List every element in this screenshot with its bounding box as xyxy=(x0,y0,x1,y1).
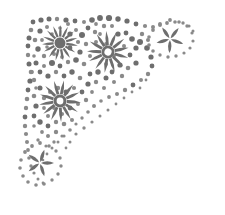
scatter-dot xyxy=(54,149,57,152)
scatter-dot xyxy=(123,88,127,92)
scatter-dot xyxy=(123,97,126,100)
scatter-dot xyxy=(38,70,43,75)
scatter-dot xyxy=(177,20,181,24)
scatter-dot xyxy=(120,74,124,78)
scatter-dot xyxy=(54,120,58,124)
scatter-dot xyxy=(102,86,106,90)
scatter-dot xyxy=(37,178,40,181)
scatter-dot xyxy=(24,106,28,110)
scatter-dot xyxy=(102,24,106,28)
scatter-dot xyxy=(32,94,37,99)
scatter-dot xyxy=(115,103,118,106)
scatter-dot xyxy=(45,25,49,29)
scatter-dot xyxy=(55,17,59,21)
scatter-dot xyxy=(93,30,97,34)
scatter-dot xyxy=(140,32,144,36)
scatter-dot xyxy=(70,118,74,122)
scatter-dot xyxy=(35,46,40,51)
scatter-dot xyxy=(24,132,28,136)
scatter-dot xyxy=(26,53,30,57)
scatter-dot xyxy=(80,116,83,119)
scatter-dot xyxy=(188,46,191,49)
scatter-dot xyxy=(30,144,34,148)
scatter-dot xyxy=(185,24,188,27)
scatter-dot xyxy=(58,156,61,159)
scatter-dot xyxy=(32,78,36,82)
scatter-dot xyxy=(42,106,46,110)
scatter-dot xyxy=(32,114,37,119)
scatter-dot xyxy=(26,88,31,93)
scatter-dot xyxy=(82,20,86,24)
scatter-dot xyxy=(182,51,185,54)
scatter-dot xyxy=(92,104,96,108)
scatter-dot xyxy=(49,60,55,66)
scatter-dot xyxy=(73,19,78,24)
scatter-dot xyxy=(99,115,102,118)
scatter-dot xyxy=(77,49,82,54)
scatter-dot xyxy=(34,61,39,66)
scatter-dot xyxy=(36,138,39,141)
scatter-dot xyxy=(122,44,126,48)
scatter-dot xyxy=(40,38,44,42)
scatter-dot xyxy=(89,17,95,23)
scatter-dot xyxy=(94,22,98,26)
scatter-dot xyxy=(56,172,59,175)
scatter-dot xyxy=(32,54,36,58)
ornament-canvas xyxy=(0,0,225,215)
scatter-dot xyxy=(107,109,110,112)
scatter-dot xyxy=(137,39,143,45)
scatter-dot xyxy=(37,28,42,33)
scatter-dot xyxy=(166,55,169,58)
scatter-dot xyxy=(112,80,116,84)
scatter-dot xyxy=(190,31,193,34)
scatter-dot xyxy=(173,20,177,24)
scatter-dot xyxy=(50,178,53,181)
scatter-dot xyxy=(23,150,27,154)
scatter-dot xyxy=(174,54,177,57)
scatter-dot xyxy=(148,54,153,59)
scatter-dot xyxy=(32,124,36,128)
scatter-dot xyxy=(106,15,112,21)
scatter-dot xyxy=(69,141,72,144)
scatter-dot xyxy=(68,128,72,132)
scatter-dot xyxy=(27,62,32,67)
scatter-dot xyxy=(158,53,161,56)
scatter-dot xyxy=(139,87,142,90)
scatter-dot xyxy=(147,43,151,47)
scatter-dot xyxy=(146,38,150,42)
scatter-dot xyxy=(84,42,88,46)
scatter-dot xyxy=(86,26,91,31)
scatter-dot xyxy=(65,147,68,150)
scatter-dot xyxy=(54,70,58,74)
scatter-dot xyxy=(115,16,120,21)
scatter-dot xyxy=(80,90,85,95)
scatter-dot xyxy=(60,134,63,137)
scatter-dot xyxy=(124,18,129,23)
scatter-dot xyxy=(95,69,100,74)
scatter-dot xyxy=(94,80,98,84)
scatter-dot xyxy=(129,36,135,42)
scatter-dot xyxy=(66,60,70,64)
scatter-dot xyxy=(143,24,147,28)
scatter-dot xyxy=(45,73,50,78)
scatter-dot xyxy=(30,70,34,74)
scatter-dot xyxy=(57,141,60,144)
scatter-dot xyxy=(38,141,42,145)
scatter-dot xyxy=(79,32,85,38)
scatter-dot xyxy=(82,126,85,129)
scatter-dot xyxy=(84,98,88,102)
scatter-dot xyxy=(52,140,55,143)
scatter-dot xyxy=(33,103,38,108)
scatter-dot xyxy=(104,76,109,81)
scatter-dot xyxy=(23,124,27,128)
scatter-dot xyxy=(134,22,139,27)
scatter-dot xyxy=(37,119,42,124)
scatter-dot xyxy=(133,60,138,65)
scatter-dot xyxy=(58,64,63,69)
scatter-dot xyxy=(78,76,83,81)
scatter-dot xyxy=(110,24,114,28)
scatter-dot xyxy=(21,174,25,178)
scatter-dot xyxy=(72,86,76,90)
scatter-dot xyxy=(191,39,194,42)
scatter-dot xyxy=(128,53,133,58)
